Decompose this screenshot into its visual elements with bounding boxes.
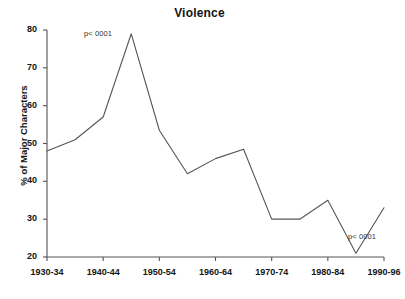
y-tick-label: 20 (11, 251, 37, 261)
data-series-line (47, 34, 384, 253)
annotation-p-value-end: p< 0001 (348, 232, 376, 241)
y-tick-label: 80 (11, 24, 37, 34)
y-tick-label: 70 (11, 62, 37, 72)
x-tick-label: 1980-84 (297, 267, 359, 277)
y-tick-label: 30 (11, 213, 37, 223)
y-tick-label: 60 (11, 100, 37, 110)
x-tick-label: 1940-44 (72, 267, 134, 277)
x-tick-label: 1950-54 (128, 267, 190, 277)
annotation-p-value-peak: p< 0001 (84, 29, 112, 38)
y-tick-label: 50 (11, 138, 37, 148)
x-tick-label: 1970-74 (241, 267, 303, 277)
x-tick-label: 1930-34 (16, 267, 78, 277)
y-tick-marks (43, 30, 47, 257)
y-tick-label: 40 (11, 175, 37, 185)
x-tick-label: 1990-96 (353, 267, 405, 277)
x-tick-label: 1960-64 (185, 267, 247, 277)
x-tick-marks (47, 257, 384, 261)
